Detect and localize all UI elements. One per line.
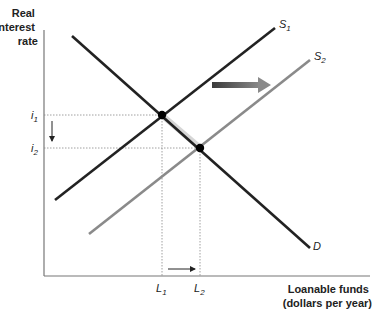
i2-label: i2 xyxy=(31,142,38,157)
x-axis-label: Loanable funds (dollars per year) xyxy=(283,283,373,309)
demand-curve xyxy=(72,36,310,248)
l2-label: L2 xyxy=(194,282,205,297)
equilibrium-point-1 xyxy=(158,111,166,119)
y-axis-label: Real interest rate xyxy=(0,7,38,47)
guide-lines xyxy=(44,115,200,276)
equilibrium-point-2 xyxy=(196,144,204,152)
d-label: D xyxy=(313,240,321,252)
s2-label: S2 xyxy=(314,50,326,65)
i1-label: i1 xyxy=(31,109,38,124)
l1-label: L1 xyxy=(156,282,167,297)
supply-shift-arrow-icon xyxy=(212,77,271,93)
s1-label: S1 xyxy=(279,18,291,33)
loanable-funds-diagram: Real interest rate Loanable funds (dolla… xyxy=(0,0,376,313)
